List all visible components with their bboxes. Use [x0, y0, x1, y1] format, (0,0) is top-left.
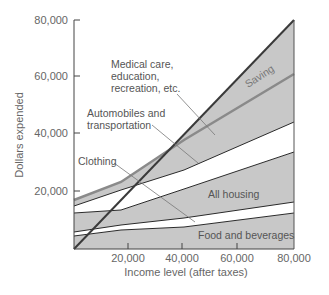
consumption-chart: 80,000 60,000 40,000 20,000 20,000 40,00… — [0, 0, 329, 295]
x-tick-20000: 20,000 — [111, 252, 145, 264]
label-medical-line2: education, — [111, 70, 159, 82]
label-autos-line2: transportation — [87, 119, 151, 131]
y-tick-80000: 80,000 — [34, 14, 68, 26]
x-axis-title: Income level (after taxes) — [124, 266, 248, 278]
x-tick-40000: 40,000 — [165, 252, 199, 264]
y-axis-title: Dollars expended — [13, 92, 25, 178]
label-medical-line3: recreation, etc. — [111, 82, 180, 94]
label-autos-line1: Automobiles and — [87, 107, 165, 119]
y-tick-20000: 20,000 — [34, 185, 68, 197]
label-clothing: Clothing — [78, 155, 117, 167]
x-tick-80000: 80,000 — [277, 252, 311, 264]
label-medical-line1: Medical care, — [111, 58, 173, 70]
label-food: Food and beverages — [198, 229, 294, 241]
label-housing: All housing — [208, 188, 260, 200]
y-tick-40000: 40,000 — [34, 127, 68, 139]
y-tick-60000: 60,000 — [34, 70, 68, 82]
x-tick-60000: 60,000 — [220, 252, 254, 264]
